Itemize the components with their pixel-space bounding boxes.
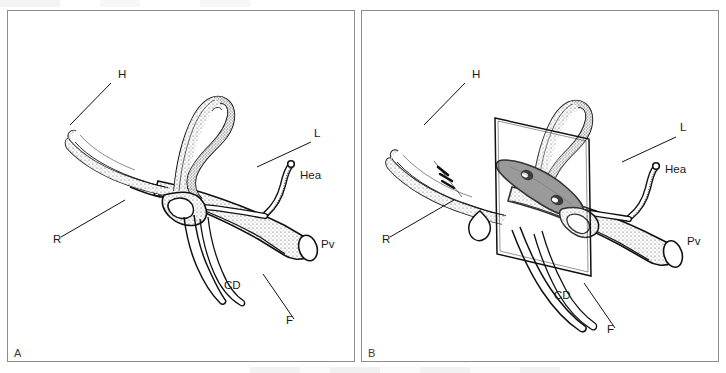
label-R-b: R xyxy=(382,233,390,245)
right-hepatic-duct-b xyxy=(386,150,506,240)
plane-glint-icon xyxy=(434,161,462,197)
panel-a: H L Hea Pv R CD F A xyxy=(7,10,355,362)
panel-letter-a: A xyxy=(14,347,22,359)
panel-b: H L Hea Pv R CD F B xyxy=(361,10,719,362)
leader-R-b xyxy=(390,200,454,237)
label-CD-a: CD xyxy=(224,279,241,291)
label-Pv-a: Pv xyxy=(321,238,335,250)
leader-L-a xyxy=(257,142,311,167)
panel-letter-b: B xyxy=(368,347,376,359)
leader-L-b xyxy=(622,137,676,162)
label-Pv-b: Pv xyxy=(687,235,701,247)
label-H-a: H xyxy=(118,68,126,80)
label-F-a: F xyxy=(286,314,293,326)
label-Hea-a: Hea xyxy=(300,169,322,181)
leader-F-b xyxy=(584,283,615,328)
leader-R-a xyxy=(61,200,125,237)
cystic-duct-a xyxy=(200,217,245,306)
leader-H-b xyxy=(424,83,465,125)
leader-H-a xyxy=(70,83,111,125)
panel-b-stage: H L Hea Pv R CD F xyxy=(362,11,718,361)
panel-a-illustration: H L Hea Pv R CD F xyxy=(8,11,354,361)
scan-artifact-top xyxy=(0,0,726,7)
label-F-b: F xyxy=(607,323,614,335)
hepatic-artery-a xyxy=(204,161,294,216)
panel-a-stage: H L Hea Pv R CD F xyxy=(8,11,354,361)
sectioning-plane-b xyxy=(434,118,591,276)
figure-root: H L Hea Pv R CD F A xyxy=(0,0,726,373)
panel-b-illustration: H L Hea Pv R CD F xyxy=(362,11,718,361)
label-CD-b: CD xyxy=(554,289,571,301)
scan-artifact-bottom xyxy=(0,367,726,373)
label-L-b: L xyxy=(680,121,687,133)
label-H-b: H xyxy=(472,68,480,80)
right-hepatic-duct-a xyxy=(66,131,168,195)
label-R-a: R xyxy=(53,233,61,245)
label-L-a: L xyxy=(314,127,321,139)
common-bile-duct-a xyxy=(184,215,226,304)
label-Hea-b: Hea xyxy=(665,163,687,175)
leader-F-a xyxy=(263,274,294,319)
